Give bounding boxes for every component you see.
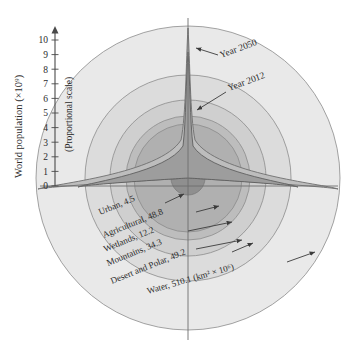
world-population-land-area-diagram: 10 9 8 7 6 5 4 3 2 1 0 World population … (0, 0, 356, 354)
y-tick-label: 7 (43, 79, 48, 89)
y-axis-title: World population (×10⁹) (13, 74, 25, 178)
y-tick-label: 8 (43, 65, 48, 75)
y-tick-label: 5 (43, 108, 48, 118)
y-tick-label: 2 (43, 152, 48, 162)
y-tick-label: 3 (43, 138, 48, 148)
y-axis-subtitle: (Proportional scale) (64, 77, 75, 152)
y-tick-label: 4 (43, 123, 48, 133)
y-tick-label: 6 (43, 94, 48, 104)
y-tick-label: 0 (43, 181, 48, 191)
y-tick-label: 10 (39, 35, 49, 45)
y-tick-label: 1 (43, 167, 48, 177)
y-tick-label: 9 (43, 50, 48, 60)
